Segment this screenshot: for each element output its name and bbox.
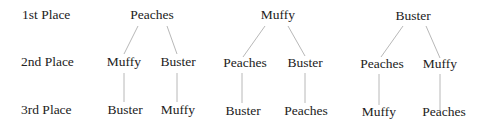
edge <box>167 26 177 54</box>
tree1-third-right: Muffy <box>161 102 195 118</box>
row-label-third: 3rd Place <box>21 102 72 118</box>
tree2-second-right: Buster <box>287 55 322 71</box>
tree1-second-left: Muffy <box>107 54 141 70</box>
tree2-third-left: Buster <box>225 103 260 119</box>
edge <box>124 26 138 54</box>
tree2-third-right: Peaches <box>284 103 327 119</box>
edge <box>288 26 305 56</box>
tree3-third-left: Muffy <box>362 104 396 120</box>
edge <box>426 26 440 58</box>
edge <box>381 26 403 57</box>
tree2-first: Muffy <box>261 7 295 23</box>
tree3-second-left: Peaches <box>360 56 403 72</box>
tree3-third-right: Peaches <box>422 104 465 120</box>
row-label-first: 1st Place <box>22 7 70 23</box>
tree3-second-right: Muffy <box>423 56 457 72</box>
tree1-first: Peaches <box>130 7 173 23</box>
tree3-first: Buster <box>395 8 430 24</box>
tree1-third-left: Buster <box>107 102 142 118</box>
tree2-second-left: Peaches <box>223 55 266 71</box>
row-label-second: 2nd Place <box>21 54 74 70</box>
edge <box>243 26 265 57</box>
tree1-second-right: Buster <box>160 54 195 70</box>
